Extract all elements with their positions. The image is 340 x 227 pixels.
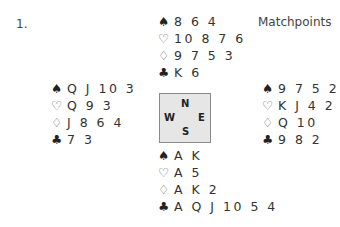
diamond-icon: ♢ xyxy=(262,114,278,131)
diamond-icon: ♢ xyxy=(158,47,174,64)
diamond-icon: ♢ xyxy=(158,181,174,198)
north-hearts: 10 8 7 6 xyxy=(174,31,246,46)
east-hearts: K J 4 2 xyxy=(278,98,335,113)
compass-west: W xyxy=(164,112,175,123)
south-diamonds-row: ♢A K 2 xyxy=(158,181,278,198)
west-diamonds: J 8 6 4 xyxy=(67,115,124,130)
hand-east: ♠9 7 5 2 ♡K J 4 2 ♢Q 10 ♣9 8 2 xyxy=(262,80,339,148)
north-clubs: K 6 xyxy=(174,65,202,80)
compass-box: N W E S xyxy=(159,93,211,143)
north-diamonds-row: ♢9 7 5 3 xyxy=(158,47,246,64)
club-icon: ♣ xyxy=(158,64,174,81)
heart-icon: ♡ xyxy=(51,97,67,114)
south-spades-row: ♠A K xyxy=(158,147,278,164)
west-hearts: Q 9 3 xyxy=(67,98,113,113)
heart-icon: ♡ xyxy=(158,164,174,181)
west-hearts-row: ♡Q 9 3 xyxy=(51,97,136,114)
compass-south: S xyxy=(182,126,189,137)
west-spades: Q J 10 3 xyxy=(67,81,136,96)
spade-icon: ♠ xyxy=(158,147,174,164)
east-clubs-row: ♣9 8 2 xyxy=(262,131,339,148)
spade-icon: ♠ xyxy=(262,80,278,97)
heart-icon: ♡ xyxy=(158,30,174,47)
north-spades-row: ♠8 6 4 xyxy=(158,13,246,30)
south-diamonds: A K 2 xyxy=(174,182,219,197)
hand-south: ♠A K ♡A 5 ♢A K 2 ♣A Q J 10 5 4 xyxy=(158,147,278,215)
south-clubs-row: ♣A Q J 10 5 4 xyxy=(158,198,278,215)
north-spades: 8 6 4 xyxy=(174,14,218,29)
hand-west: ♠Q J 10 3 ♡Q 9 3 ♢J 8 6 4 ♣7 3 xyxy=(51,80,136,148)
north-diamonds: 9 7 5 3 xyxy=(174,48,235,63)
west-spades-row: ♠Q J 10 3 xyxy=(51,80,136,97)
diamond-icon: ♢ xyxy=(51,114,67,131)
east-clubs: 9 8 2 xyxy=(278,132,322,147)
east-spades: 9 7 5 2 xyxy=(278,81,339,96)
scoring-method: Matchpoints xyxy=(258,15,331,29)
club-icon: ♣ xyxy=(51,131,67,148)
north-hearts-row: ♡10 8 7 6 xyxy=(158,30,246,47)
club-icon: ♣ xyxy=(262,131,278,148)
spade-icon: ♠ xyxy=(158,13,174,30)
south-clubs: A Q J 10 5 4 xyxy=(174,199,278,214)
spade-icon: ♠ xyxy=(51,80,67,97)
south-spades: A K xyxy=(174,148,202,163)
east-spades-row: ♠9 7 5 2 xyxy=(262,80,339,97)
south-hearts: A 5 xyxy=(174,165,202,180)
board-number: 1. xyxy=(16,17,27,31)
club-icon: ♣ xyxy=(158,198,174,215)
east-diamonds: Q 10 xyxy=(278,115,318,130)
east-hearts-row: ♡K J 4 2 xyxy=(262,97,339,114)
east-diamonds-row: ♢Q 10 xyxy=(262,114,339,131)
heart-icon: ♡ xyxy=(262,97,278,114)
west-diamonds-row: ♢J 8 6 4 xyxy=(51,114,136,131)
hand-north: ♠8 6 4 ♡10 8 7 6 ♢9 7 5 3 ♣K 6 xyxy=(158,13,246,81)
compass-east: E xyxy=(198,112,205,123)
north-clubs-row: ♣K 6 xyxy=(158,64,246,81)
compass-north: N xyxy=(181,98,189,109)
south-hearts-row: ♡A 5 xyxy=(158,164,278,181)
west-clubs-row: ♣7 3 xyxy=(51,131,136,148)
west-clubs: 7 3 xyxy=(67,132,94,147)
